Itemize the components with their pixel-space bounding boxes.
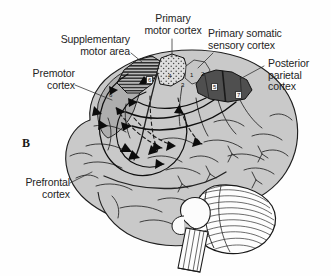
label-prefrontal-cortex: Prefrontal cortex — [0, 177, 70, 200]
brodmann-area-5: 5 — [211, 83, 218, 91]
label-supplementary-motor-area: Supplementary motor area — [0, 34, 130, 57]
label-primary-motor-cortex: Primary motor cortex — [130, 13, 216, 36]
brodmann-area-4: 4 — [168, 73, 171, 79]
brodmann-area-3: 3 — [181, 82, 184, 88]
brodmann-area-7: 7 — [235, 91, 242, 99]
label-primary-somatic-sensory-cortex: Primary somatic sensory cortex — [208, 28, 308, 51]
brodmann-area-6-premotor: 6 — [109, 92, 112, 98]
brodmann-area-6-sma: 6 — [146, 76, 153, 84]
label-posterior-parietal-cortex: Posterior parietal cortex — [268, 58, 330, 93]
brodmann-area-1: 1 — [190, 72, 193, 78]
brodmann-area-2: 2 — [201, 71, 204, 77]
brain-cortical-areas-figure: B Supplementary motor area Primary motor… — [0, 0, 331, 276]
label-premotor-cortex: Premotor cortex — [0, 68, 75, 91]
panel-letter-b: B — [22, 136, 30, 151]
